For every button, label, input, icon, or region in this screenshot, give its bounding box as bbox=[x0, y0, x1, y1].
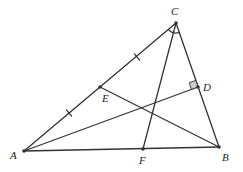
point-E bbox=[98, 85, 102, 89]
segment-CF bbox=[143, 23, 176, 149]
label-A: A bbox=[9, 149, 17, 161]
label-C: C bbox=[171, 5, 179, 17]
point-D bbox=[196, 85, 200, 89]
segment-AD bbox=[24, 87, 198, 151]
point-C bbox=[174, 21, 178, 25]
point-A bbox=[22, 149, 26, 153]
segments bbox=[24, 23, 219, 151]
label-D: D bbox=[202, 81, 211, 93]
point-F bbox=[141, 147, 145, 151]
point-B bbox=[217, 145, 221, 149]
label-B: B bbox=[222, 151, 229, 163]
geometry-diagram: A B C D E F bbox=[0, 0, 243, 172]
label-E: E bbox=[101, 92, 109, 104]
segment-AB bbox=[24, 147, 219, 151]
label-F: F bbox=[138, 154, 146, 166]
